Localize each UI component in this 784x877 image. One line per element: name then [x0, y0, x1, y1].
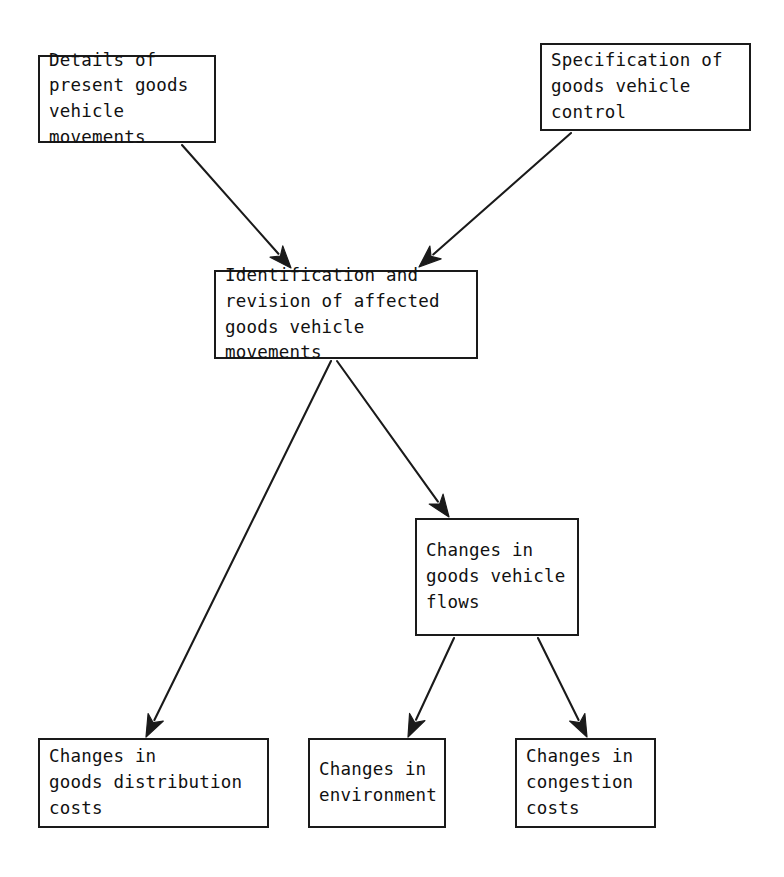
- edge-specification-to-identification: [419, 133, 571, 267]
- node-label: Identification and revision of affected …: [225, 263, 440, 366]
- arrowhead-icon: [570, 714, 587, 737]
- edge-flows-to-environment: [408, 638, 454, 737]
- edge-line: [337, 361, 438, 502]
- node-identification-revision[interactable]: Identification and revision of affected …: [214, 270, 478, 359]
- diagram-canvas: Details of present goods vehicle movemen…: [0, 0, 784, 877]
- edge-line: [416, 638, 454, 720]
- node-label: Specification of goods vehicle control: [551, 48, 723, 125]
- arrowhead-icon: [429, 494, 449, 517]
- edge-details-to-identification: [182, 145, 291, 268]
- node-changes-environment[interactable]: Changes in environment: [308, 738, 446, 828]
- edge-identification-to-distribution: [146, 361, 331, 737]
- edge-line: [538, 638, 579, 720]
- edge-flows-to-congestion: [538, 638, 587, 737]
- node-label: Changes in environment: [319, 757, 437, 808]
- edge-line: [154, 361, 331, 720]
- node-label: Changes in congestion costs: [526, 744, 633, 821]
- node-specification-control[interactable]: Specification of goods vehicle control: [540, 43, 751, 131]
- node-label: Details of present goods vehicle movemen…: [49, 48, 189, 151]
- edge-line: [182, 145, 278, 254]
- node-changes-congestion-costs[interactable]: Changes in congestion costs: [515, 738, 656, 828]
- node-changes-goods-vehicle-flows[interactable]: Changes in goods vehicle flows: [415, 518, 579, 636]
- arrowhead-icon: [408, 713, 425, 737]
- arrowhead-icon: [146, 714, 163, 737]
- node-label: Changes in goods distribution costs: [49, 744, 242, 821]
- node-changes-distribution-costs[interactable]: Changes in goods distribution costs: [38, 738, 269, 828]
- node-label: Changes in goods vehicle flows: [426, 538, 566, 615]
- edge-line: [433, 133, 571, 254]
- node-details-present-movements[interactable]: Details of present goods vehicle movemen…: [38, 55, 216, 143]
- edge-identification-to-flows: [337, 361, 449, 517]
